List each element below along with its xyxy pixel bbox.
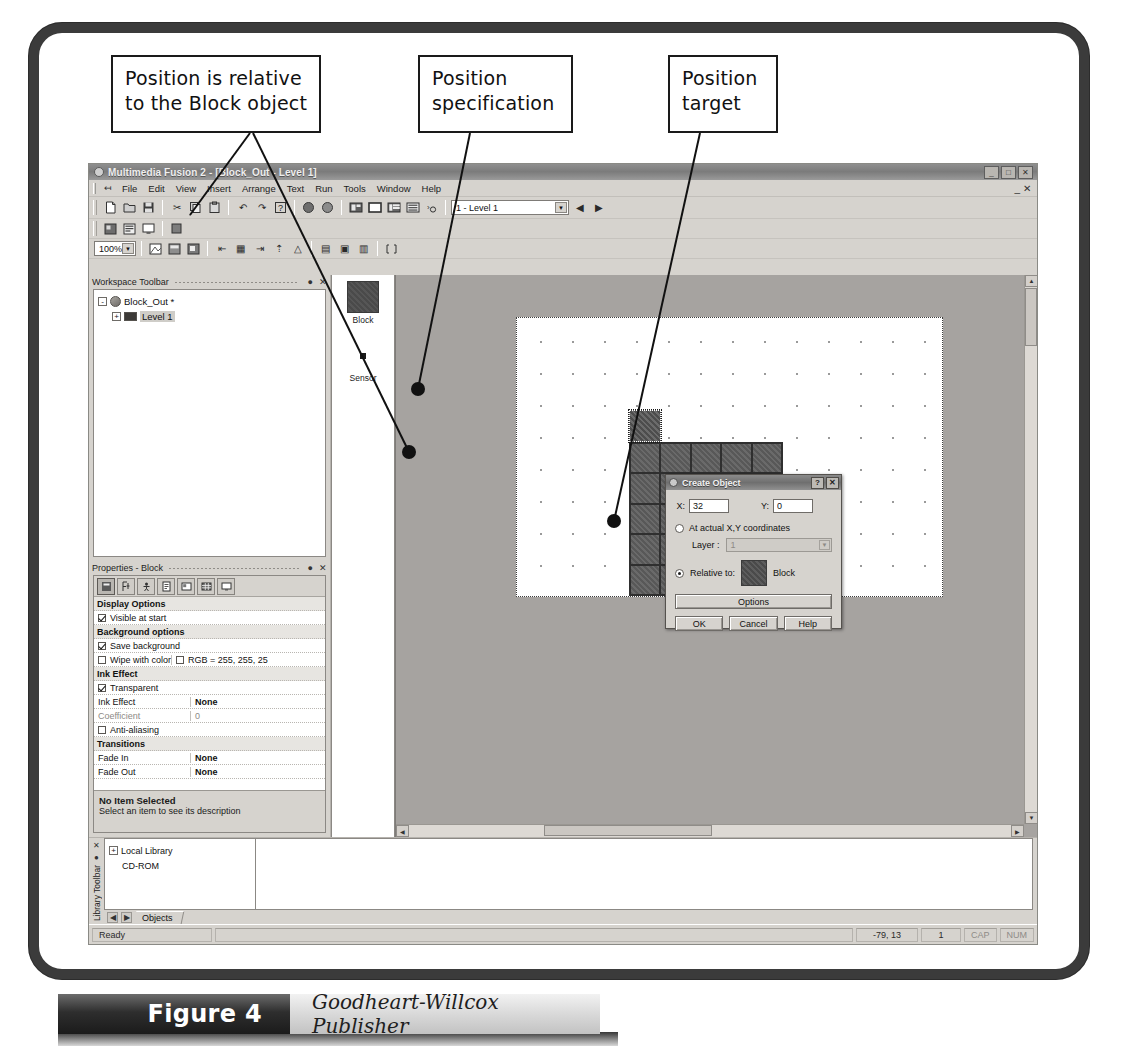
figure-number-block: Figure 4 bbox=[58, 994, 290, 1034]
callout-position-target: Position target bbox=[668, 55, 778, 133]
relative-leader-line bbox=[0, 0, 1131, 1050]
figure-caption-bar: Figure 4 Goodheart-Willcox Publisher bbox=[58, 994, 600, 1034]
figure-credit-block: Goodheart-Willcox Publisher bbox=[290, 994, 600, 1034]
figure-credit-label: Goodheart-Willcox Publisher bbox=[312, 990, 600, 1038]
callout-position-specification: Position specification bbox=[418, 55, 573, 133]
callout-position-relative: Position is relative to the Block object bbox=[111, 55, 321, 133]
figure-number-label: Figure 4 bbox=[148, 1000, 262, 1028]
